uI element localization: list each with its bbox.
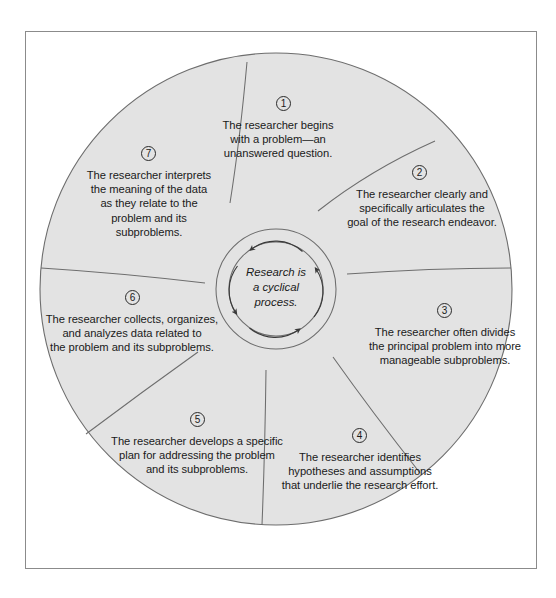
step-number-7: 7 — [141, 146, 156, 161]
step-text-4: The researcher identifies hypotheses and… — [270, 450, 450, 493]
step-text-5: The researcher develops a specific plan … — [97, 434, 297, 477]
step-text-3: The researcher often divides the princip… — [356, 325, 534, 368]
step-text-7: The researcher interprets the meaning of… — [73, 168, 225, 239]
step-number-5: 5 — [190, 412, 205, 427]
step-text-2: The researcher clearly and specifically … — [337, 187, 507, 230]
step-number-4: 4 — [352, 428, 367, 443]
figure-canvas: Research is a cyclical process. 1 The re… — [0, 0, 556, 598]
step-text-1: The researcher begins with a problem—an … — [203, 118, 353, 161]
step-number-1: 1 — [276, 96, 291, 111]
step-number-3: 3 — [437, 303, 452, 318]
step-number-2: 2 — [412, 165, 427, 180]
center-label: Research is a cyclical process. — [226, 265, 326, 310]
step-number-6: 6 — [125, 290, 140, 305]
step-text-6: The researcher collects, organizes, and … — [32, 312, 232, 355]
